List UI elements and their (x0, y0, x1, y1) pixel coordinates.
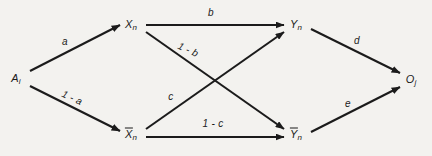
node-X-bar: Xn (125, 129, 137, 140)
node-sink-O: Oj (406, 74, 417, 85)
diagram-canvas: Ai Xn Xn Yn Yn Oj a1 - ab1 - bc1 - cde (0, 0, 432, 156)
node-Y: Yn (290, 19, 302, 30)
edge-label-a: a (62, 37, 68, 47)
diagram-graph (0, 0, 432, 156)
edge-line-e (311, 87, 400, 132)
node-X: Xn (125, 19, 137, 30)
edge-label-d: d (354, 36, 360, 46)
edge-label-1-c: 1 - c (203, 119, 224, 129)
edge-label-c: c (168, 92, 173, 102)
node-Y-bar: Yn (290, 129, 302, 140)
edge-line-a (30, 25, 120, 71)
edge-label-b: b (208, 8, 214, 18)
edge-label-e: e (345, 99, 351, 109)
node-source-A: Ai (11, 73, 21, 84)
